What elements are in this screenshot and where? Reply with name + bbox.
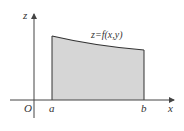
curve-label: z=f(x,y) — [90, 29, 123, 41]
origin-label: O — [24, 102, 32, 114]
b-label: b — [141, 102, 147, 114]
x-axis-label: x — [167, 102, 173, 114]
a-label: a — [49, 102, 55, 114]
z-axis-label: z — [22, 9, 28, 21]
shaded-region — [52, 36, 144, 100]
area-diagram: z x O a b z=f(x,y) — [0, 0, 184, 131]
